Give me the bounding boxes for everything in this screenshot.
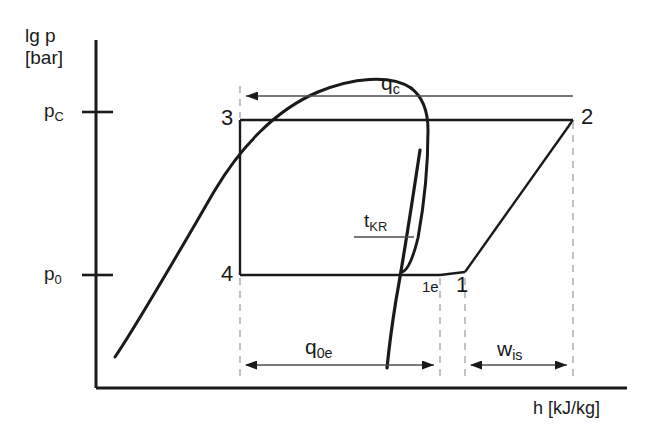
point-label-3: 3 <box>221 107 233 129</box>
x-axis-label: h [kJ/kg] <box>533 399 600 417</box>
point-label-4: 4 <box>221 263 233 285</box>
point-label-1: 1 <box>456 274 468 296</box>
diagram-canvas: lg p [bar] pC p0 h [kJ/kg] 3 4 2 1e 1 qc… <box>0 0 648 435</box>
energy-arrow-group <box>246 96 573 365</box>
energy-label-wis: wis <box>497 338 522 359</box>
isotherm-label-tkr: tKR <box>364 211 387 230</box>
process-1-2-compression <box>465 120 573 272</box>
axis-group <box>82 40 627 388</box>
log-p-h-diagram-svg <box>0 0 648 435</box>
energy-label-q0e: q0e <box>305 336 333 357</box>
y-axis-label-line2: [bar] <box>25 48 63 67</box>
point-label-2: 2 <box>581 106 593 128</box>
y-tick-label-pC: pC <box>44 101 64 120</box>
energy-label-qc: qc <box>381 72 400 93</box>
isotherm-tkr-line <box>387 150 420 368</box>
y-tick-label-p0: p0 <box>44 264 62 283</box>
point-label-1e: 1e <box>422 279 439 294</box>
y-axis-label-line1: lg p <box>25 26 56 45</box>
cycle-process-lines <box>240 120 573 275</box>
